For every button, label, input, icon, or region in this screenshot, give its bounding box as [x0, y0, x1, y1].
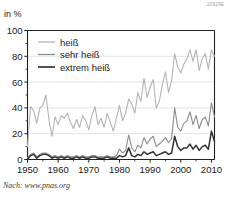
legend-label-sehr-heiß: sehr heiß — [60, 49, 100, 60]
figure-container: 20929E in % Nach: www.pnas.org 020406080… — [0, 0, 227, 197]
y-tick-label-60: 60 — [12, 77, 23, 88]
x-tick-label-1970: 1970 — [78, 164, 99, 175]
x-tick-label-2010: 2010 — [201, 164, 222, 175]
y-tick-label-20: 20 — [12, 128, 23, 139]
y-tick-label-80: 80 — [12, 51, 23, 62]
line-chart: 0204060801001950196019701980199020002010… — [0, 0, 227, 197]
y-tick-label-40: 40 — [12, 102, 23, 113]
x-tick-label-2000: 2000 — [170, 164, 191, 175]
series-line-heiß — [28, 50, 215, 147]
legend-label-extrem-heiß: extrem heiß — [60, 62, 110, 73]
x-tick-label-1960: 1960 — [48, 164, 69, 175]
y-tick-label-100: 100 — [7, 25, 23, 36]
x-tick-label-1950: 1950 — [17, 164, 38, 175]
legend-label-heiß: heiß — [60, 37, 79, 48]
x-tick-label-1980: 1980 — [109, 164, 130, 175]
x-tick-label-1990: 1990 — [140, 164, 161, 175]
